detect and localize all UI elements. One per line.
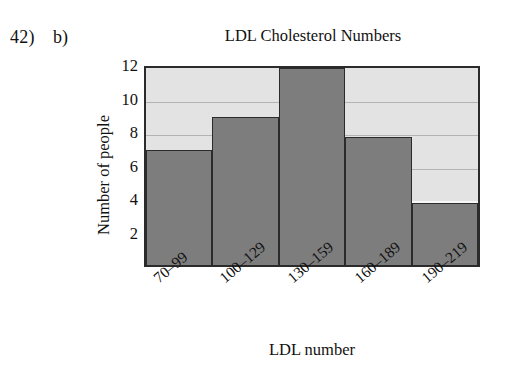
bar-slot [345, 68, 411, 265]
bar-160-189 [345, 137, 411, 265]
y-tick-label: 6 [104, 158, 138, 175]
question-part-label: b) [53, 27, 68, 48]
bar-100-129 [212, 117, 278, 265]
plot-area [144, 66, 480, 267]
y-tick-label: 4 [104, 192, 138, 209]
y-tick-label: 10 [104, 91, 138, 108]
question-number: 42) [10, 27, 35, 48]
bar-slot [279, 68, 345, 265]
bar-130-159 [279, 68, 345, 265]
bar-series [146, 68, 478, 265]
x-axis-title: LDL number [144, 340, 480, 360]
x-axis-tick-labels: 70–99 100–129 130–159 160–189 190–219 [144, 269, 480, 329]
y-tick-label: 8 [104, 125, 138, 142]
worksheet-page: 42) b) LDL Cholesterol Numbers Number of… [0, 0, 528, 380]
y-tick-label: 2 [104, 225, 138, 242]
y-tick-label: 12 [104, 58, 138, 75]
bar-slot [412, 68, 478, 265]
bar-slot [212, 68, 278, 265]
y-axis-tick-labels: 12 10 8 6 4 2 [100, 66, 138, 267]
bar-slot [146, 68, 212, 265]
chart-title: LDL Cholesterol Numbers [143, 26, 483, 46]
